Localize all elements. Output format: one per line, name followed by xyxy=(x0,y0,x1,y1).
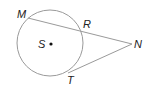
geometry-diagram: M R S N T xyxy=(0,0,149,86)
label-s: S xyxy=(38,38,46,50)
center-point-s xyxy=(49,42,52,45)
label-n: N xyxy=(134,38,142,50)
label-m: M xyxy=(17,8,27,20)
label-t: T xyxy=(67,74,75,86)
tangent-tn xyxy=(68,44,132,73)
label-r: R xyxy=(83,18,91,30)
